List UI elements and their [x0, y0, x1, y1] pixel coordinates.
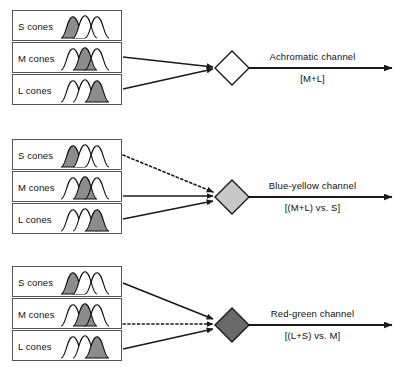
- connector-m-to-achromatic: [123, 57, 213, 67]
- diamond-achromatic[interactable]: [215, 51, 249, 85]
- connector-l-to-blue-yellow: [123, 201, 213, 219]
- connector-l-to-red-green: [123, 329, 213, 349]
- cone-curves-m: [59, 173, 119, 200]
- cone-box-s-achromatic[interactable]: S cones: [12, 10, 122, 41]
- cone-curves-l: [59, 76, 119, 103]
- cone-curves-m: [59, 44, 119, 71]
- diagram-canvas: S cones M cones L cones: [0, 0, 399, 373]
- connector-s-to-blue-yellow: [123, 155, 213, 192]
- diamond-blue-yellow[interactable]: [215, 180, 249, 214]
- cone-curves-l: [59, 332, 119, 359]
- channel-formula-achromatic: [M+L]: [255, 73, 370, 84]
- cone-label-m: M cones: [18, 308, 55, 319]
- cone-box-s-blue-yellow[interactable]: S cones: [12, 139, 122, 170]
- cone-label-s: S cones: [18, 276, 53, 287]
- cone-label-s: S cones: [18, 20, 53, 31]
- cone-curves-s: [59, 12, 119, 39]
- channel-formula-red-green: [(L+S) vs. M]: [255, 330, 370, 341]
- cone-label-l: L cones: [18, 84, 52, 95]
- channel-name-blue-yellow: Blue-yellow channel: [255, 180, 370, 191]
- diamond-red-green[interactable]: [215, 308, 249, 342]
- channel-name-red-green: Red-green channel: [255, 308, 370, 319]
- cone-box-l-blue-yellow[interactable]: L cones: [12, 203, 122, 234]
- cone-curves-l: [59, 205, 119, 232]
- cone-label-s: S cones: [18, 149, 53, 160]
- cone-label-m: M cones: [18, 181, 55, 192]
- cone-label-m: M cones: [18, 52, 55, 63]
- cone-label-l: L cones: [18, 340, 52, 351]
- cone-curves-s: [59, 268, 119, 295]
- cone-box-m-achromatic[interactable]: M cones: [12, 42, 122, 73]
- cone-box-l-achromatic[interactable]: L cones: [12, 74, 122, 105]
- cone-box-s-red-green[interactable]: S cones: [12, 266, 122, 297]
- connector-s-to-red-green: [123, 283, 213, 319]
- cone-box-m-red-green[interactable]: M cones: [12, 298, 122, 329]
- cone-box-l-red-green[interactable]: L cones: [12, 330, 122, 361]
- connector-l-to-achromatic: [123, 69, 213, 89]
- channel-formula-blue-yellow: [(M+L) vs. S]: [255, 202, 370, 213]
- cone-curves-s: [59, 141, 119, 168]
- channel-name-achromatic: Achromatic channel: [255, 51, 370, 62]
- cone-box-m-blue-yellow[interactable]: M cones: [12, 171, 122, 202]
- cone-curves-m: [59, 300, 119, 327]
- cone-label-l: L cones: [18, 213, 52, 224]
